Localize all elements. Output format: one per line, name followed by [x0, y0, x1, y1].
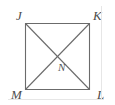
- scan-edge-artifact-right: [101, 6, 102, 100]
- square-diagonals: [26, 24, 90, 90]
- geometry-figure: J K L M N: [0, 0, 115, 105]
- scan-edge-artifact-bottom: [8, 99, 104, 100]
- point-label-N: N: [58, 62, 65, 73]
- vertex-label-J: J: [16, 9, 22, 22]
